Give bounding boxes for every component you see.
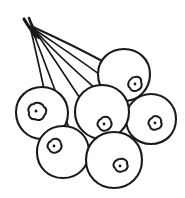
berry-right (126, 94, 176, 144)
berry-top-right-calyx-dot (134, 83, 137, 86)
berry-center (75, 85, 129, 139)
berry-center-calyx-dot (103, 123, 106, 126)
berry-bottom-left-outline (37, 126, 89, 178)
berry-bottom-left (37, 126, 89, 178)
berry-illustration (0, 0, 185, 198)
berry-left-calyx-dot (35, 110, 38, 113)
berry-bottom-left-calyx-dot (53, 145, 56, 148)
berry-bottom-right-calyx-dot (119, 165, 122, 168)
berry-right-calyx-dot (154, 122, 157, 125)
berry-bottom-right (86, 132, 142, 188)
berry-cluster-drawing (0, 0, 185, 198)
berry-bottom-right-outline (86, 132, 142, 188)
